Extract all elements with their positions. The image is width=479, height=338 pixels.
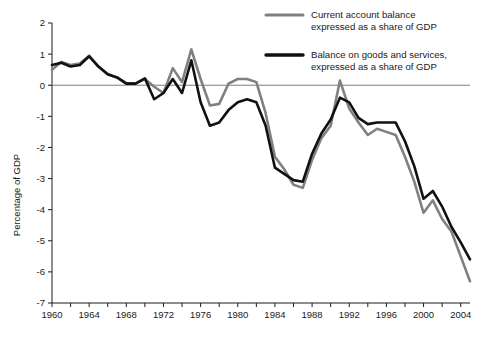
x-tick-label: 2004 <box>450 309 471 320</box>
y-tick-label: -7 <box>37 297 45 308</box>
legend-label-current-account-line1: Current account balance <box>311 9 416 20</box>
y-tick-label: 2 <box>40 17 45 28</box>
chart-figure: Percentage of GDP 210-1-2-3-4-5-6-7 1960… <box>0 0 479 338</box>
series-line-goods-services <box>52 56 470 259</box>
x-tick-label: 1968 <box>116 309 137 320</box>
legend-label-current-account-line2: expressed as a share of GDP <box>311 21 437 32</box>
x-tick-label: 1980 <box>227 309 248 320</box>
x-tick-label: 1964 <box>79 309 100 320</box>
x-tick-label: 2000 <box>413 309 434 320</box>
x-tick-label: 1972 <box>153 309 174 320</box>
y-tick-label: -1 <box>37 111 45 122</box>
y-axis-ticks: 210-1-2-3-4-5-6-7 <box>37 17 52 308</box>
x-tick-label: 1976 <box>190 309 211 320</box>
y-tick-label: -5 <box>37 235 45 246</box>
y-tick-label: -4 <box>37 204 45 215</box>
legend-label-goods-services-line1: Balance on goods and services, <box>311 49 447 60</box>
legend-label-goods-services-line2: expressed as a share of GDP <box>311 61 437 72</box>
y-tick-label: 1 <box>40 49 45 60</box>
y-tick-label: -6 <box>37 266 45 277</box>
y-tick-label: -3 <box>37 173 45 184</box>
y-tick-label: -2 <box>37 142 45 153</box>
x-axis-ticks: 1960196419681972197619801984198819921996… <box>41 303 471 320</box>
x-tick-label: 1960 <box>41 309 62 320</box>
data-series-group <box>52 49 470 281</box>
x-tick-label: 1988 <box>302 309 323 320</box>
x-tick-label: 1992 <box>339 309 360 320</box>
line-chart-svg: Percentage of GDP 210-1-2-3-4-5-6-7 1960… <box>0 0 479 338</box>
y-axis-title: Percentage of GDP <box>11 154 22 236</box>
x-tick-label: 1996 <box>376 309 397 320</box>
chart-legend: Current account balance expressed as a s… <box>266 9 447 72</box>
series-line-current-account <box>52 49 470 281</box>
x-tick-label: 1984 <box>264 309 285 320</box>
y-tick-label: 0 <box>40 80 45 91</box>
